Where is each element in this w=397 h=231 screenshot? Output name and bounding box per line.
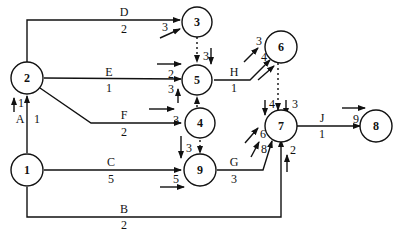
activity-e-duration: 1 — [106, 81, 112, 95]
node-9: 9 — [184, 154, 216, 186]
svg-text:3: 3 — [292, 97, 298, 111]
activity-b: B 2 — [27, 140, 281, 231]
svg-text:6: 6 — [278, 40, 284, 54]
svg-text:8: 8 — [373, 119, 379, 133]
svg-text:2: 2 — [290, 143, 296, 157]
svg-text:4: 4 — [269, 97, 275, 111]
svg-text:2: 2 — [24, 71, 30, 85]
svg-text:2: 2 — [168, 67, 174, 81]
node-4: 4 — [185, 108, 215, 138]
svg-text:3: 3 — [173, 113, 179, 127]
activity-c: C 5 — [44, 155, 181, 186]
svg-text:9: 9 — [197, 163, 203, 177]
svg-text:3: 3 — [194, 15, 200, 29]
node-6: 6 — [265, 31, 297, 63]
activity-d-name: D — [120, 5, 129, 19]
activity-h-name: H — [230, 65, 239, 79]
activity-h-duration: 1 — [231, 81, 237, 95]
node-2: 2 — [11, 62, 43, 94]
activity-f-duration: 2 — [121, 125, 127, 139]
svg-text:3: 3 — [186, 141, 192, 155]
svg-text:3: 3 — [256, 34, 262, 48]
svg-text:9: 9 — [353, 112, 359, 126]
activity-g-duration: 3 — [231, 172, 237, 186]
activity-j-name: J — [320, 111, 325, 125]
svg-text:8: 8 — [261, 142, 267, 156]
svg-text:3: 3 — [203, 49, 209, 63]
activity-f: F 2 — [40, 88, 181, 139]
node-5: 5 — [182, 65, 212, 95]
activity-e-name: E — [105, 65, 112, 79]
node-3: 3 — [182, 7, 212, 37]
svg-text:3: 3 — [168, 82, 174, 96]
activity-d: D 2 — [27, 5, 180, 62]
svg-text:7: 7 — [278, 119, 284, 133]
svg-text:4: 4 — [197, 116, 203, 130]
svg-text:3: 3 — [162, 20, 168, 34]
activity-j: J 1 — [297, 111, 360, 141]
activity-a-name: A — [16, 112, 25, 126]
network-diagram: D 2 E 1 F 2 A 1 C 5 B 2 G 3 H 1 — [0, 0, 397, 231]
svg-text:1: 1 — [24, 163, 30, 177]
node-7: 7 — [265, 110, 297, 142]
activity-b-name: B — [120, 202, 128, 216]
activity-j-duration: 1 — [319, 127, 325, 141]
activity-c-name: C — [107, 155, 115, 169]
svg-text:5: 5 — [173, 172, 179, 186]
activity-e: E 1 — [44, 65, 181, 95]
activity-d-duration: 2 — [121, 22, 127, 36]
activity-c-duration: 5 — [108, 172, 114, 186]
node-1: 1 — [11, 154, 43, 186]
activity-f-name: F — [121, 108, 128, 122]
svg-text:5: 5 — [194, 73, 200, 87]
node-8: 8 — [360, 110, 392, 142]
activity-b-duration: 2 — [121, 218, 127, 231]
activity-a-duration: 1 — [34, 112, 40, 126]
svg-text:1: 1 — [18, 96, 24, 110]
activity-g-name: G — [230, 155, 239, 169]
